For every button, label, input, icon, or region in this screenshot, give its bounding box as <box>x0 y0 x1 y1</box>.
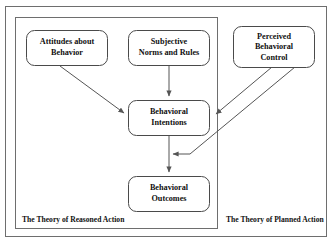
caption-reasoned-action: The Theory of Reasoned Action <box>22 215 125 224</box>
node-subjective-norms-and-rules[interactable]: Subjective Norms and Rules <box>129 31 210 66</box>
caption-planned-action: The Theory of Planned Action <box>226 215 325 224</box>
node-behavioral-intentions[interactable]: Behavioral Intentions <box>129 101 210 136</box>
connector-control-to-intentions <box>216 67 272 114</box>
node-control-label-line3: Control <box>260 53 288 62</box>
diagram-figure: Attitudes about Behavior Subjective Norm… <box>0 0 333 244</box>
connector-attitudes-to-intentions <box>60 66 124 113</box>
node-outcomes-label-line2: Outcomes <box>151 194 186 203</box>
node-intentions-label-line1: Behavioral <box>150 107 189 116</box>
node-attitudes-label-line1: Attitudes about <box>40 37 95 46</box>
node-outcomes-label-line1: Behavioral <box>150 183 189 192</box>
node-control-label-line1: Perceived <box>257 32 291 41</box>
node-attitudes-label-line2: Behavior <box>51 48 83 57</box>
node-attitudes-about-behavior[interactable]: Attitudes about Behavior <box>27 31 108 66</box>
node-norms-label-line2: Norms and Rules <box>139 48 200 57</box>
node-control-label-line2: Behavioral <box>255 42 294 51</box>
node-perceived-behavioral-control[interactable]: Perceived Behavioral Control <box>234 27 315 68</box>
node-intentions-label-line2: Intentions <box>151 118 187 127</box>
node-behavioral-outcomes[interactable]: Behavioral Outcomes <box>129 177 210 212</box>
node-norms-label-line1: Subjective <box>151 37 188 46</box>
